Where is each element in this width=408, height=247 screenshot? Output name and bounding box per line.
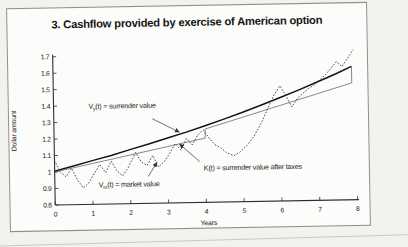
svg-text:0.9: 0.9 bbox=[43, 185, 52, 192]
svg-text:Years: Years bbox=[200, 219, 217, 226]
svg-text:1.6: 1.6 bbox=[41, 70, 50, 77]
svg-text:2: 2 bbox=[129, 209, 133, 216]
page-edge-line bbox=[0, 234, 408, 247]
svg-text:3: 3 bbox=[167, 208, 171, 215]
svg-text:0: 0 bbox=[54, 210, 58, 217]
figure-card: 3. Cashflow provided by exercise of Amer… bbox=[6, 2, 371, 232]
svg-text:Dollar amount: Dollar amount bbox=[10, 110, 18, 151]
svg-text:4: 4 bbox=[205, 208, 209, 215]
svg-text:K(t) = surrender value after t: K(t) = surrender value after taxes bbox=[204, 163, 303, 173]
svg-text:1.5: 1.5 bbox=[41, 86, 50, 93]
svg-text:0.8: 0.8 bbox=[43, 201, 52, 208]
svg-text:1: 1 bbox=[48, 168, 52, 175]
plot-area: 0.80.911.11.21.31.41.51.61.7012345678Yea… bbox=[9, 48, 360, 230]
svg-text:7: 7 bbox=[318, 206, 322, 213]
svg-text:1.2: 1.2 bbox=[42, 136, 51, 143]
svg-text:8: 8 bbox=[356, 205, 360, 212]
svg-text:1.4: 1.4 bbox=[42, 103, 51, 110]
svg-text:1: 1 bbox=[91, 210, 95, 217]
svg-text:1.7: 1.7 bbox=[41, 53, 50, 60]
svg-text:6: 6 bbox=[280, 206, 284, 213]
svg-text:Vm(t) = market value: Vm(t) = market value bbox=[99, 180, 160, 190]
svg-text:1.3: 1.3 bbox=[42, 119, 51, 126]
svg-text:Vy(t) = surrender value: Vy(t) = surrender value bbox=[88, 102, 156, 112]
svg-text:1.1: 1.1 bbox=[42, 152, 51, 159]
svg-text:5: 5 bbox=[243, 207, 247, 214]
cashflow-chart: 0.80.911.11.21.31.41.51.61.7012345678Yea… bbox=[8, 29, 372, 231]
